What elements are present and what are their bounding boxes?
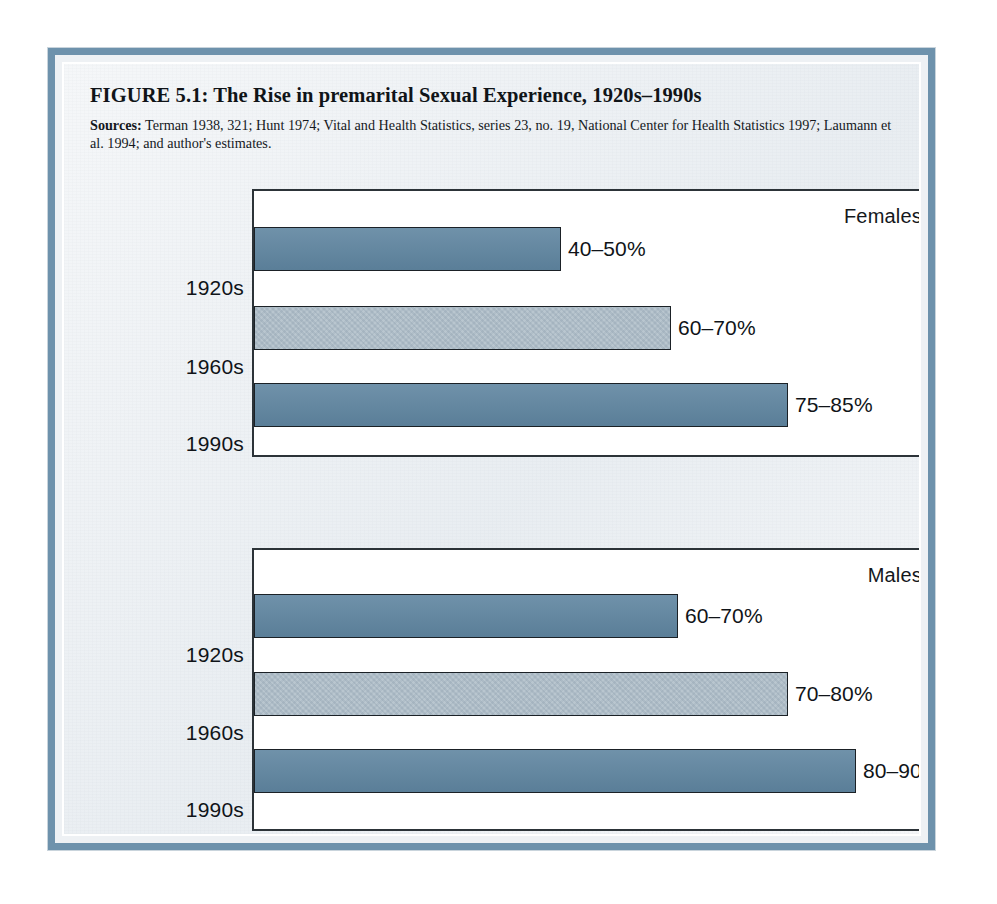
figure-outer-frame: FIGURE 5.1: The Rise in premarital Sexua… (48, 48, 935, 850)
bar-females-1960s (254, 306, 671, 350)
bar-row: 75–85% (254, 383, 873, 427)
category-label-females-1990s: 1990s (94, 432, 244, 456)
figure-inner-area: FIGURE 5.1: The Rise in premarital Sexua… (62, 62, 921, 836)
bar-row: 70–80% (254, 672, 873, 716)
bar-females-1920s (254, 227, 561, 271)
sources-label: Sources: (90, 117, 142, 133)
bar-males-1990s (254, 749, 856, 793)
category-label-females-1960s: 1960s (94, 355, 244, 379)
bar-row: 80–90% (254, 749, 921, 793)
panel-legend-females: Females (844, 205, 921, 228)
bar-row: 60–70% (254, 306, 756, 350)
scanned-page: FIGURE 5.1: The Rise in premarital Sexua… (0, 0, 997, 904)
figure-title: FIGURE 5.1: The Rise in premarital Sexua… (90, 84, 900, 107)
category-label-females-1920s: 1920s (94, 276, 244, 300)
figure-sources: Sources: Terman 1938, 321; Hunt 1974; Vi… (90, 116, 900, 152)
sources-text: Terman 1938, 321; Hunt 1974; Vital and H… (90, 117, 891, 151)
chart-panel-females: Females 40–50% 60–70% 75–85% (252, 189, 921, 457)
category-label-males-1990s: 1990s (94, 798, 244, 822)
panel-legend-males: Males (868, 564, 921, 587)
bar-value-males-1990s: 80–90% (863, 759, 921, 783)
bar-value-females-1990s: 75–85% (795, 393, 873, 417)
category-label-males-1960s: 1960s (94, 721, 244, 745)
bar-males-1920s (254, 594, 678, 638)
bar-row: 40–50% (254, 227, 646, 271)
bar-value-males-1960s: 70–80% (795, 682, 873, 706)
bar-value-females-1960s: 60–70% (678, 316, 756, 340)
chart-panel-males: Males 60–70% 70–80% 80–90% (252, 548, 921, 831)
bar-males-1960s (254, 672, 788, 716)
bar-females-1990s (254, 383, 788, 427)
bar-row: 60–70% (254, 594, 763, 638)
bar-value-females-1920s: 40–50% (568, 237, 646, 261)
figure-caption-block: FIGURE 5.1: The Rise in premarital Sexua… (90, 84, 900, 152)
bar-value-males-1920s: 60–70% (685, 604, 763, 628)
category-label-males-1920s: 1920s (94, 643, 244, 667)
